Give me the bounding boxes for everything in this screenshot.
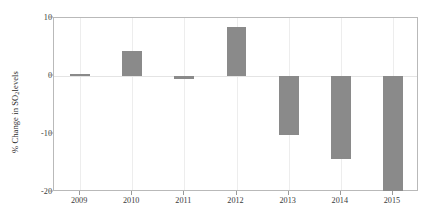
bar-2011[interactable] [174, 76, 194, 79]
plot-area [53, 17, 418, 191]
bar-2013[interactable] [279, 76, 299, 135]
y-tick-label--10: -10 [12, 129, 52, 138]
y-axis-title-subscript: 2 [13, 91, 20, 94]
bar-chart-figure: % Change in SO2 levels 100-10-20 2009201… [0, 0, 428, 224]
y-axis-title-prefix: % Change in SO [10, 95, 20, 153]
x-tick-mark-2015 [392, 191, 393, 195]
y-tick-label-10: 10 [12, 13, 52, 22]
x-tick-mark-2009 [79, 191, 80, 195]
y-tick-label-0: 0 [12, 71, 52, 80]
x-tick-mark-2013 [288, 191, 289, 195]
x-tick-label-2012: 2012 [227, 196, 243, 205]
zero-baseline [54, 76, 417, 77]
x-tick-label-2010: 2010 [123, 196, 139, 205]
x-tick-mark-2014 [340, 191, 341, 195]
gridline-2010 [132, 18, 133, 190]
x-tick-mark-2011 [183, 191, 184, 195]
bar-2010[interactable] [122, 51, 142, 76]
x-tick-label-2011: 2011 [175, 196, 191, 205]
bar-2014[interactable] [331, 76, 351, 159]
x-tick-mark-2010 [131, 191, 132, 195]
bar-2015[interactable] [383, 76, 403, 191]
x-tick-label-2015: 2015 [384, 196, 400, 205]
x-tick-label-2009: 2009 [71, 196, 87, 205]
bar-2012[interactable] [227, 27, 247, 76]
x-tick-label-2014: 2014 [332, 196, 348, 205]
gridline-2009 [80, 18, 81, 190]
x-tick-label-2013: 2013 [279, 196, 295, 205]
bar-2009[interactable] [70, 74, 90, 76]
y-tick-label--20: -20 [12, 187, 52, 196]
gridline-2011 [184, 18, 185, 190]
x-tick-mark-2012 [236, 191, 237, 195]
